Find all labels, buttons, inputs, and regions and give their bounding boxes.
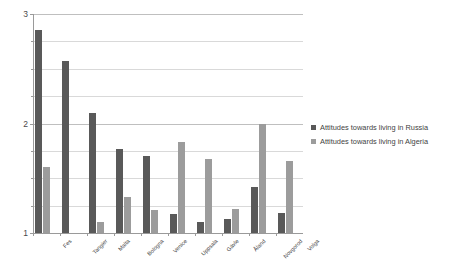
bar — [143, 156, 150, 233]
x-axis-tick-mark — [249, 233, 250, 236]
bar-group — [276, 14, 303, 233]
x-axis-tick-label: Bologna — [146, 238, 165, 257]
legend-swatch-icon — [311, 139, 316, 144]
plot-area — [33, 14, 303, 233]
y-axis-minor-tick-mark — [31, 41, 33, 42]
bar-group — [33, 14, 60, 233]
y-axis-minor-tick-mark — [31, 206, 33, 207]
y-axis-minor-tick-mark — [31, 96, 33, 97]
bar — [89, 113, 96, 233]
y-axis-tick-label: 1 — [0, 228, 28, 238]
x-axis-tick-label: Malta — [117, 238, 131, 252]
y-axis-tick-mark — [30, 14, 33, 15]
y-axis-tick-mark — [30, 124, 33, 125]
bar — [178, 142, 185, 233]
x-axis-tick-label: Volga — [306, 238, 320, 252]
bar-group — [87, 14, 114, 233]
legend-item-label: Attitudes towards living in Algeria — [320, 137, 428, 146]
bar — [170, 214, 177, 233]
x-axis-tick-mark — [222, 233, 223, 236]
y-axis-tick-label: 2 — [0, 119, 28, 129]
bar-chart: 123 FesTangierMaltaBolognaVeniceUppsalaG… — [0, 0, 450, 268]
bar — [232, 209, 239, 233]
legend-swatch-icon — [311, 125, 316, 130]
bar — [224, 219, 231, 233]
bar — [286, 161, 293, 233]
bar-group — [195, 14, 222, 233]
bar-group — [60, 14, 87, 233]
legend-item[interactable]: Attitudes towards living in Algeria — [311, 137, 428, 146]
bar — [43, 167, 50, 233]
x-axis-tick-label: Gävle — [225, 238, 240, 253]
bar-group — [141, 14, 168, 233]
legend-item[interactable]: Attitudes towards living in Russia — [311, 123, 428, 132]
bar-group — [249, 14, 276, 233]
x-axis-tick-label: Novgorod — [282, 238, 303, 259]
x-axis-tick-label: Uppsala — [200, 238, 219, 257]
bar — [278, 213, 285, 233]
y-axis-minor-tick-mark — [31, 151, 33, 152]
y-axis-tick-label: 3 — [0, 9, 28, 19]
bar — [259, 124, 266, 234]
x-axis-tick-mark — [168, 233, 169, 236]
bar-group — [168, 14, 195, 233]
bar — [251, 187, 258, 233]
chart-legend: Attitudes towards living in RussiaAttitu… — [311, 123, 428, 151]
x-axis-tick-mark — [33, 233, 34, 236]
x-axis-tick-mark — [141, 233, 142, 236]
legend-item-label: Attitudes towards living in Russia — [320, 123, 428, 132]
bar-group — [222, 14, 249, 233]
x-axis-tick-label: Tangier — [91, 238, 108, 255]
bar-group — [114, 14, 141, 233]
x-axis-tick-mark — [87, 233, 88, 236]
x-axis-tick-mark — [195, 233, 196, 236]
bar — [197, 222, 204, 233]
bar — [151, 210, 158, 233]
x-axis-tick-label: Åland — [252, 238, 266, 252]
x-axis-tick-label: Venice — [172, 238, 188, 254]
y-axis-minor-tick-mark — [31, 178, 33, 179]
x-axis-tick-label: Fes — [61, 238, 72, 249]
x-axis-tick-mark — [60, 233, 61, 236]
bar — [124, 197, 131, 233]
x-axis-tick-mark — [114, 233, 115, 236]
bar — [205, 159, 212, 233]
x-axis-tick-mark — [276, 233, 277, 236]
bar — [62, 61, 69, 233]
bar — [35, 30, 42, 233]
y-axis-line — [33, 14, 34, 233]
bar — [116, 149, 123, 233]
y-axis-minor-tick-mark — [31, 69, 33, 70]
bar — [97, 222, 104, 233]
